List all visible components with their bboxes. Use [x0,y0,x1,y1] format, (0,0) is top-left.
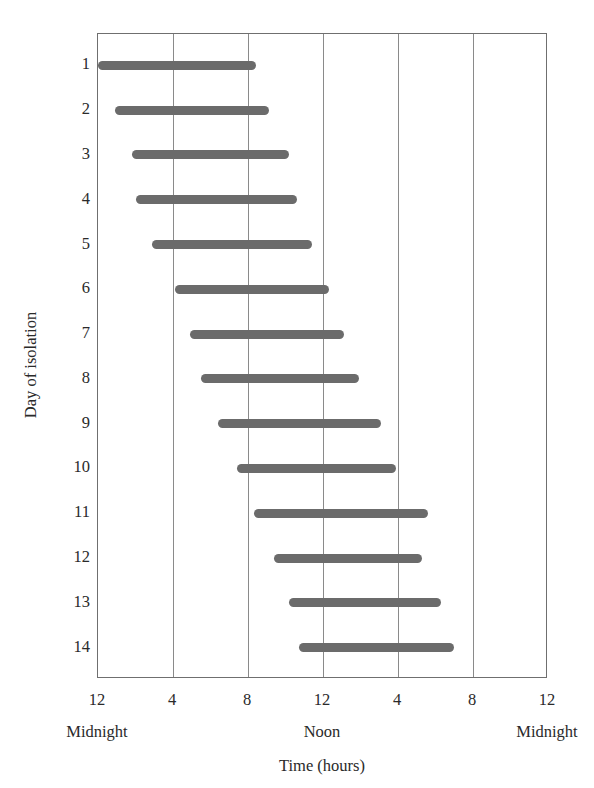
y-tick-label-14: 14 [50,639,90,656]
y-axis-tick-labels: 1234567891011121314 [40,0,90,788]
sleep-bar-day-12 [274,554,422,563]
sleep-bar-day-2 [115,106,269,115]
sleep-bar-day-6 [175,285,329,294]
x-tick-label-5: 8 [442,690,502,710]
y-tick-label-8: 8 [50,370,90,387]
x-tick-label-4: 4 [367,690,427,710]
sleep-bar-day-9 [218,419,381,428]
x-tick-label-0: 12 [67,690,127,710]
y-tick-label-2: 2 [50,101,90,118]
x-tick-label-6: 12 [517,690,577,710]
y-tick-label-6: 6 [50,280,90,297]
y-tick-label-13: 13 [50,594,90,611]
gridline-8 [473,34,474,677]
x-axis-period-labels: MidnightNoonMidnight [0,722,594,750]
y-axis-title: Day of isolation [21,270,41,460]
y-tick-label-10: 10 [50,459,90,476]
y-tick-label-4: 4 [50,191,90,208]
x-tick-label-2: 8 [217,690,277,710]
x-tick-label-3: 12 [292,690,352,710]
gridline-12 [323,34,324,677]
sleep-bar-day-10 [237,464,396,473]
sleep-bar-day-11 [254,509,428,518]
gridline-8 [248,34,249,677]
sleep-bar-day-3 [132,150,290,159]
y-tick-label-7: 7 [50,325,90,342]
x-period-label-2: Midnight [477,722,594,742]
gridline-4 [173,34,174,677]
x-axis-title: Time (hours) [97,756,547,776]
y-tick-label-3: 3 [50,146,90,163]
y-tick-label-12: 12 [50,549,90,566]
sleep-bar-day-7 [190,330,344,339]
x-period-label-0: Midnight [27,722,167,742]
x-period-label-1: Noon [252,722,392,742]
plot-area [97,33,547,678]
sleep-bar-day-5 [152,240,311,249]
x-axis-tick-labels: 1248124812 [0,690,594,720]
sleep-bar-day-13 [289,598,441,607]
y-tick-label-1: 1 [50,56,90,73]
y-tick-label-11: 11 [50,504,90,521]
sleep-bar-day-14 [299,643,455,652]
sleep-bar-day-8 [201,374,359,383]
y-tick-label-9: 9 [50,415,90,432]
x-tick-label-1: 4 [142,690,202,710]
y-tick-label-5: 5 [50,236,90,253]
sleep-bar-day-4 [136,195,297,204]
chart-figure: Day of isolation 1234567891011121314 124… [0,0,594,788]
gridline-4 [398,34,399,677]
sleep-bar-day-1 [98,61,256,70]
